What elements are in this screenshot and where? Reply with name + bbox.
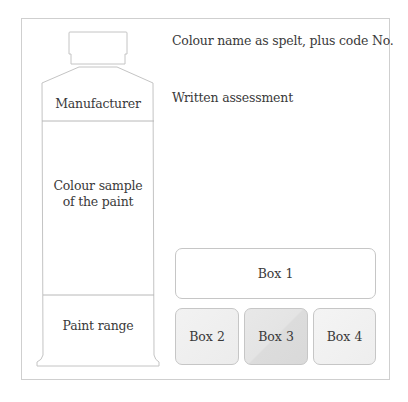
- manufacturer-label: Manufacturer: [42, 96, 154, 112]
- box-4: Box 4: [313, 308, 376, 365]
- box-3-label: Box 3: [258, 329, 294, 344]
- box-1-label: Box 1: [258, 266, 294, 281]
- tube-cap: [69, 32, 127, 64]
- box-3: Box 3: [244, 308, 308, 365]
- colour-name-field: Colour name as spelt, plus code No.: [172, 33, 394, 48]
- box-2: Box 2: [175, 308, 239, 365]
- paint-range-label: Paint range: [42, 318, 154, 334]
- written-assessment-field: Written assessment: [172, 90, 293, 105]
- colour-sample-label-line1: Colour sample: [42, 178, 154, 194]
- box-2-label: Box 2: [189, 329, 225, 344]
- box-4-label: Box 4: [327, 329, 363, 344]
- box-1: Box 1: [175, 248, 376, 299]
- colour-sample-label-line2: of the paint: [42, 194, 154, 210]
- colour-sample-area: Colour sample of the paint: [42, 178, 154, 210]
